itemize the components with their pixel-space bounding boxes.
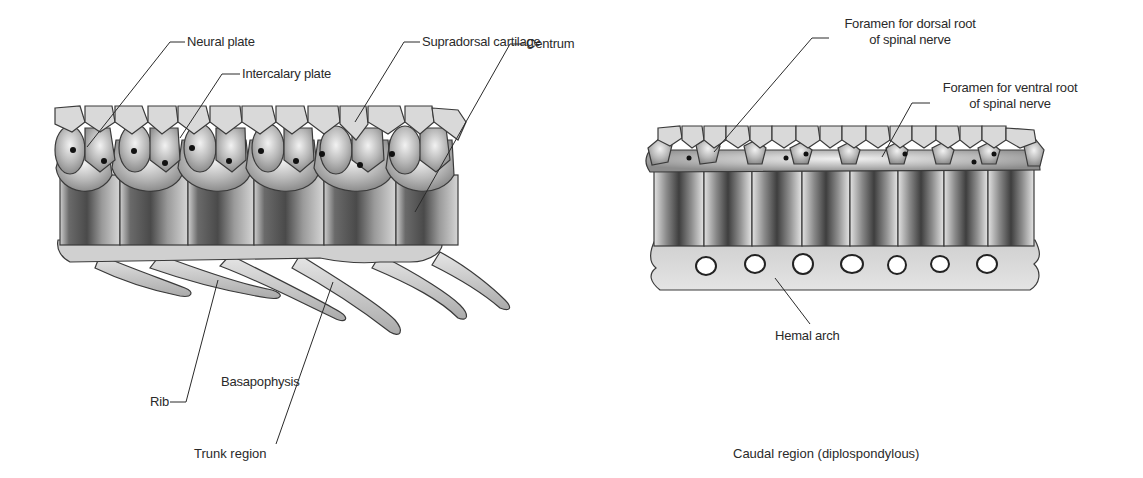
label-rib: Rib — [150, 394, 169, 410]
ribs — [95, 252, 510, 334]
caudal-centra — [654, 168, 1034, 246]
label-foramen-ventral-root: Foramen for ventral root of spinal nerve — [922, 80, 1098, 112]
caption-caudal-region: Caudal region (diplospondylous) — [733, 446, 919, 461]
label-foramen-dorsal-line2: of spinal nerve — [822, 32, 998, 48]
label-neural-plate: Neural plate — [187, 34, 255, 50]
vertebral-column-diagram — [0, 0, 1143, 478]
label-foramen-ventral-line2: of spinal nerve — [922, 96, 1098, 112]
label-basapophysis: Basapophysis — [221, 374, 300, 390]
label-foramen-ventral-line1: Foramen for ventral root — [922, 80, 1098, 96]
label-hemal-arch: Hemal arch — [775, 328, 839, 344]
label-supradorsal-cartilage: Supradorsal cartilage — [422, 34, 541, 50]
trunk-vertebrae-drawing — [55, 106, 510, 334]
label-intercalary-plate: Intercalary plate — [242, 66, 331, 82]
caption-trunk-region: Trunk region — [194, 446, 267, 461]
label-foramen-dorsal-root: Foramen for dorsal root of spinal nerve — [822, 16, 998, 48]
trunk-centra — [60, 175, 458, 245]
label-foramen-dorsal-line1: Foramen for dorsal root — [822, 16, 998, 32]
caudal-vertebrae-drawing — [646, 126, 1044, 290]
label-centrum: Centrum — [526, 36, 574, 52]
